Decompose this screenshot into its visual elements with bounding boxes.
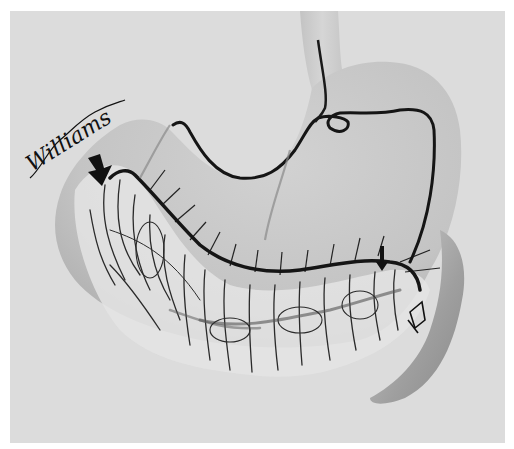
stomach-illustration: Williams (0, 0, 514, 449)
illustration: Williams Stomach with gastroepiploic art… (0, 0, 514, 449)
